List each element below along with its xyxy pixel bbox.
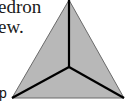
- tetrahedron-top-view: [0, 0, 129, 105]
